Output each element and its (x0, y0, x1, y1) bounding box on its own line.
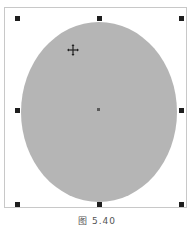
center-point-marker[interactable] (97, 108, 100, 111)
figure-caption: 图 5.40 (0, 214, 194, 227)
resize-handle-middle-left[interactable] (15, 108, 20, 113)
resize-handle-top-center[interactable] (97, 16, 102, 21)
resize-handle-top-right[interactable] (179, 16, 184, 21)
resize-handle-bottom-center[interactable] (97, 202, 102, 207)
resize-handle-middle-right[interactable] (179, 108, 184, 113)
resize-handle-bottom-right[interactable] (179, 202, 184, 207)
move-cursor-icon (67, 44, 79, 56)
resize-handle-top-left[interactable] (15, 16, 20, 21)
ellipse-shape[interactable] (21, 22, 177, 202)
resize-handle-bottom-left[interactable] (15, 202, 20, 207)
